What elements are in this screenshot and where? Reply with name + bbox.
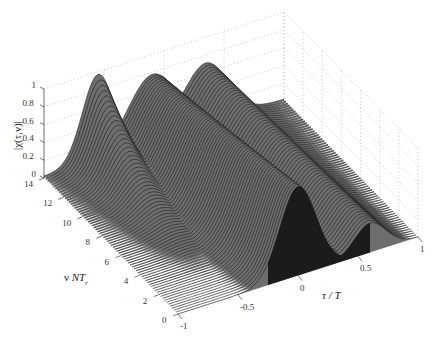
y-tick-label: 10 (62, 219, 71, 228)
y-tick-label: 0 (162, 316, 167, 325)
x-axis-label-text: τ / T (322, 289, 341, 301)
y-axis-label-main: NT (72, 271, 85, 283)
x-tick-label: -1 (180, 322, 188, 331)
z-tick-label: 0 (32, 170, 37, 179)
y-tick-label: 14 (24, 180, 33, 189)
z-axis-label: |χ(τ,ν)| (12, 121, 23, 150)
y-tick-label: 2 (143, 297, 148, 306)
y-tick-label: 8 (85, 238, 90, 247)
ambiguity-surface (44, 63, 418, 314)
y-tick-label: 6 (105, 258, 110, 267)
y-axis-label-sub: r (85, 279, 88, 287)
z-tick-label: 0.8 (23, 99, 34, 108)
x-tick-label: -0.5 (240, 303, 254, 312)
y-tick-label: 12 (43, 199, 52, 208)
y-tick-label: 4 (124, 277, 129, 286)
y-axis-label: ν NTr (64, 272, 88, 283)
z-tick-label: 1 (32, 81, 37, 90)
x-tick-label: 1 (420, 245, 425, 254)
surface-plot (0, 0, 438, 338)
y-axis-label-prefix: ν (64, 271, 72, 283)
z-tick-label: 0.2 (23, 152, 34, 161)
z-tick-label: 0.4 (23, 134, 34, 143)
x-tick-label: 0 (300, 284, 305, 293)
z-tick-label: 0.6 (23, 117, 34, 126)
x-axis-label: τ / T (322, 290, 341, 301)
x-tick-label: 0.5 (360, 264, 371, 273)
